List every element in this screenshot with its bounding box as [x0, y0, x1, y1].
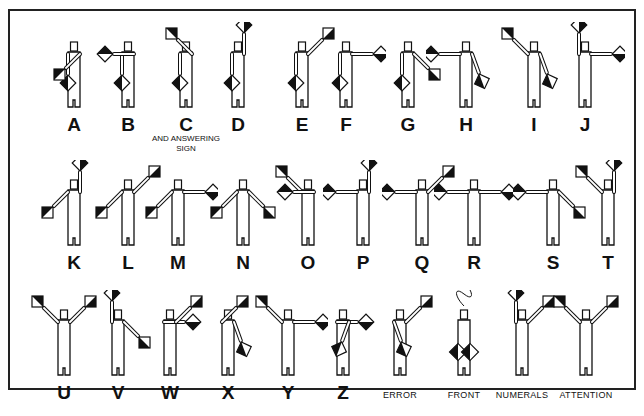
signal-t: T	[568, 160, 644, 280]
semaphore-figure-icon	[546, 290, 626, 382]
semaphore-figure-icon	[568, 160, 644, 252]
figure-eight-motion-icon	[457, 290, 472, 306]
signal-label: R	[434, 252, 514, 274]
signal-j: J	[545, 22, 625, 142]
signal-attention: ATTENTION	[546, 290, 626, 410]
signal-label: ATTENTION	[546, 390, 626, 400]
signal-r: R	[434, 160, 514, 280]
signal-label: J	[545, 114, 625, 136]
semaphore-figure-icon	[545, 22, 625, 114]
signal-label: T	[568, 252, 644, 274]
semaphore-figure-icon	[434, 160, 514, 252]
